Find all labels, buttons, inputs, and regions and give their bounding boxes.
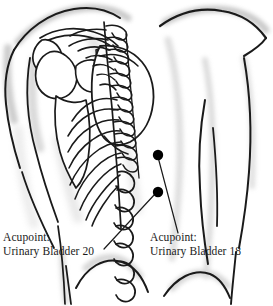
- acupoint-label-bl20-line1: Acupoint:: [3, 231, 94, 245]
- acupoint-label-bl18-line1: Acupoint:: [150, 231, 241, 245]
- anatomy-illustration: [0, 0, 273, 306]
- acupoint-figure: Acupoint: Urinary Bladder 20 Acupoint: U…: [0, 0, 273, 306]
- acupoint-label-bl18-line2: Urinary Bladder 18: [150, 245, 241, 259]
- acupoint-label-bl20-line2: Urinary Bladder 20: [3, 245, 94, 259]
- acupoint-marker-bl20: [153, 187, 163, 197]
- acupoint-label-bl18: Acupoint: Urinary Bladder 18: [150, 231, 241, 258]
- acupoint-label-bl20: Acupoint: Urinary Bladder 20: [3, 231, 94, 258]
- acupoint-marker-bl18: [153, 150, 163, 160]
